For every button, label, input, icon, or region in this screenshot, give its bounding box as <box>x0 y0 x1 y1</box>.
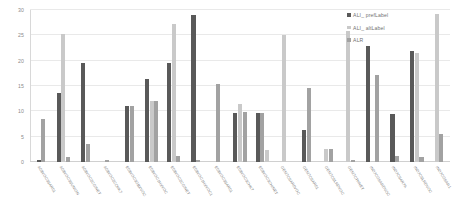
bar <box>419 157 423 162</box>
x-axis-label-cell: GEM7CSLRDVOC <box>317 163 339 222</box>
bar <box>366 46 370 162</box>
legend-item[interactable]: ALI_ prefLabel <box>347 12 388 18</box>
bar <box>145 79 149 162</box>
bar <box>176 156 180 162</box>
bar <box>390 114 394 162</box>
legend-label: ALI_ prefLabel <box>353 12 388 18</box>
chart-legend: ALI_ prefLabelALI_ altLabelALR <box>347 12 388 43</box>
bar-group <box>52 10 74 162</box>
y-axis-tick-label: 10 <box>18 108 24 114</box>
x-axis-tick-label: IND7CGSAR1 <box>435 165 453 189</box>
x-axis-label-cell: A08VOC2CGINET <box>74 163 96 222</box>
bar-group <box>273 10 295 162</box>
bar <box>351 160 355 162</box>
bar <box>395 156 399 162</box>
bar-group <box>74 10 96 162</box>
x-axis-label-cell: GEM7CSAR01 <box>295 163 317 222</box>
x-axis-label-cell: A08VOC2CCHK7 <box>96 163 118 222</box>
bar-group <box>207 10 229 162</box>
bar <box>57 93 61 162</box>
bar <box>238 104 242 162</box>
bar <box>125 106 129 162</box>
bar <box>410 51 414 162</box>
bar-group <box>163 10 185 162</box>
bar <box>265 150 269 162</box>
bar <box>307 88 311 162</box>
bar <box>216 84 220 162</box>
bar <box>37 160 41 162</box>
bar <box>260 113 264 162</box>
bar <box>233 113 237 162</box>
y-axis-tick-label: 15 <box>18 83 24 89</box>
bar <box>41 119 45 162</box>
bar <box>324 149 328 162</box>
x-axis-labels: A08VOC3SAR01A08VOC3SUNIONA08VOC2CGINETA0… <box>30 163 450 222</box>
y-axis: 051015202530 <box>0 10 28 162</box>
legend-item[interactable]: ALR <box>347 37 388 43</box>
bar-group <box>229 10 251 162</box>
legend-swatch-icon <box>347 26 351 30</box>
bar <box>167 63 171 162</box>
legend-swatch-icon <box>347 38 351 42</box>
bar-group <box>141 10 163 162</box>
bar <box>172 24 176 162</box>
bar <box>196 160 200 162</box>
y-axis-tick-label: 0 <box>21 159 24 165</box>
x-axis-label-cell: A08VOC3SUNION <box>52 163 74 222</box>
x-axis-label-cell: E08VOC1HXVOC <box>141 163 163 222</box>
y-axis-tick-label: 5 <box>21 134 24 140</box>
bar <box>154 101 158 162</box>
bar-group <box>185 10 207 162</box>
bar <box>329 149 333 162</box>
bar-group <box>251 10 273 162</box>
x-axis-label-cell: IND7CGSAR1 <box>428 163 450 222</box>
bar <box>150 101 154 162</box>
x-axis-label-cell: E08VOC1HXVOC1 <box>185 163 207 222</box>
bar <box>66 157 70 162</box>
y-axis-tick-label: 30 <box>18 7 24 13</box>
x-axis-label-cell: E08VOC3CHK7 <box>229 163 251 222</box>
x-axis-label-cell: IND7CGSARDVOC <box>362 163 384 222</box>
bar <box>61 34 65 162</box>
bar <box>81 63 85 162</box>
bar-chart: 051015202530 A08VOC3SAR01A08VOC3SUNIONA0… <box>0 0 463 222</box>
bar-group <box>118 10 140 162</box>
legend-label: ALR <box>353 37 363 43</box>
x-axis-label-cell: E08VOC3CHINET <box>251 163 273 222</box>
bar <box>282 35 286 162</box>
bar <box>435 14 439 162</box>
bar <box>256 113 260 162</box>
bar <box>86 144 90 162</box>
bar <box>243 112 247 162</box>
bar <box>191 15 195 162</box>
bar-group <box>317 10 339 162</box>
x-axis-label-cell: IND7CSAR7A <box>384 163 406 222</box>
y-axis-tick-label: 25 <box>18 32 24 38</box>
bar <box>346 31 350 162</box>
bar <box>371 161 375 162</box>
x-axis-label-cell: E08VOC3GBXVOC <box>118 163 140 222</box>
x-axis-label-cell: IND7CSLRDVOC <box>406 163 428 222</box>
y-axis-tick-label: 20 <box>18 58 24 64</box>
legend-swatch-icon <box>347 13 351 17</box>
bar <box>439 134 443 162</box>
x-axis-label-cell: A08VOC3SAR01 <box>30 163 52 222</box>
bar <box>302 130 306 162</box>
bar-group <box>30 10 52 162</box>
bar <box>415 53 419 162</box>
bar <box>375 75 379 162</box>
x-axis-label-cell: E08VOC2CGINET <box>163 163 185 222</box>
x-axis-label-cell: GEM7CSAR0VOC <box>273 163 295 222</box>
bar-group <box>96 10 118 162</box>
legend-item[interactable]: ALI_ altLabel <box>347 25 388 31</box>
x-axis-label-cell: E08VOC3SAR01 <box>207 163 229 222</box>
bar-group <box>406 10 428 162</box>
bar <box>105 160 109 162</box>
bar-group <box>295 10 317 162</box>
bar-group <box>428 10 450 162</box>
bar <box>130 106 134 162</box>
x-axis-label-cell: GEM7CTHNET <box>340 163 362 222</box>
legend-label: ALI_ altLabel <box>353 25 385 31</box>
